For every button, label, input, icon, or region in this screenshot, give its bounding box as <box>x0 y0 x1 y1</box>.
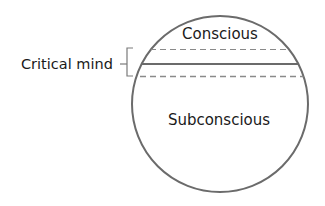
conscious-label: Conscious <box>182 25 258 43</box>
subconscious-label: Subconscious <box>168 111 270 129</box>
critical-mind-label: Critical mind <box>21 56 113 72</box>
critical-mind-bracket <box>127 48 133 76</box>
mind-diagram: Conscious Critical mind Subconscious <box>0 0 325 206</box>
